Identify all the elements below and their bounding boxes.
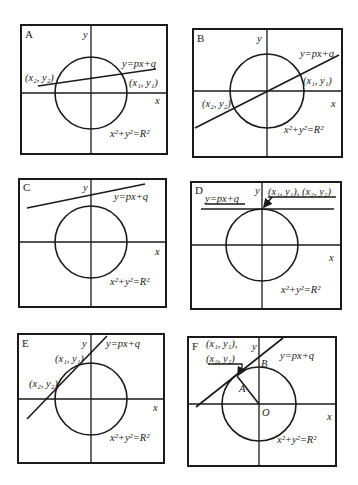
panel-b-line-eq: y=px+q bbox=[299, 48, 334, 59]
panel-d-circle-eq: x²+y²=R² bbox=[280, 284, 321, 295]
panel-a-y-label: y bbox=[82, 29, 88, 40]
panel-c-x-label: x bbox=[154, 246, 160, 257]
panel-b: B y x y=px+q (x₁, y₁) (x₂, y₂) x²+y²=R² bbox=[193, 29, 342, 157]
panel-f-x-label: x bbox=[326, 411, 332, 422]
panel-e-x-label: x bbox=[152, 402, 158, 413]
panel-d-arrow bbox=[264, 197, 272, 207]
panel-f-line-eq: y=px+q bbox=[279, 350, 314, 361]
panel-d-points: (x₁, y₁), (x₂, y₂) bbox=[268, 186, 331, 198]
panel-e-point-2: (x₂, y₂) bbox=[29, 378, 58, 390]
panel-c-line-eq: y=px+q bbox=[113, 191, 148, 202]
panel-a-x-label: x bbox=[154, 95, 160, 106]
panel-d-line-eq: y=px+q bbox=[204, 193, 239, 204]
panel-f-label-b: B bbox=[261, 358, 268, 369]
panel-b-point-2: (x₂, y₂) bbox=[202, 98, 231, 110]
panel-e-tag: E bbox=[22, 337, 29, 349]
panel-f-point-1: (x₁, y₁), bbox=[206, 338, 238, 350]
panel-a-tag: A bbox=[25, 28, 33, 40]
panel-a-circle-eq: x²+y²=R² bbox=[109, 128, 150, 139]
panel-e-line-eq: y=px+q bbox=[105, 338, 140, 349]
panel-b-x-label: x bbox=[330, 98, 336, 109]
panel-e-point-1: (x₁, y₁) bbox=[55, 353, 84, 365]
panel-d-tag: D bbox=[195, 184, 203, 196]
panel-b-circle-eq: x²+y²=R² bbox=[283, 124, 324, 135]
panel-f-label-a: A bbox=[238, 383, 246, 394]
panel-a-point-1: (x₁, y₁) bbox=[129, 77, 158, 89]
panel-f-point-2: (x₂, y₂) bbox=[206, 353, 235, 365]
panel-d-y-label: y bbox=[254, 185, 260, 196]
panel-b-y-label: y bbox=[256, 33, 262, 44]
panel-a: A y x y=px+q (x₂, y₂) (x₁, y₁) x²+y²=R² bbox=[21, 25, 167, 154]
panel-a-line-eq: y=px+q bbox=[121, 58, 156, 69]
panel-c-tag: C bbox=[23, 181, 30, 193]
panel-c-circle-eq: x²+y²=R² bbox=[109, 276, 150, 287]
panel-d-x-label: x bbox=[328, 252, 334, 263]
panel-c-y-label: y bbox=[82, 182, 88, 193]
panel-e-circle-eq: x²+y²=R² bbox=[109, 432, 150, 443]
panel-f-label-o: O bbox=[262, 407, 270, 418]
panel-f: F y x y=px+q (x₁, y₁), (x₂, y₂) A B O x²… bbox=[188, 337, 336, 466]
panel-d: D y x y=px+q (x₁, y₁), (x₂, y₂) x²+y²=R² bbox=[191, 182, 341, 309]
panel-b-tag: B bbox=[197, 32, 204, 44]
figure-canvas: A y x y=px+q (x₂, y₂) (x₁, y₁) x²+y²=R² … bbox=[0, 0, 358, 485]
panel-f-y-label: y bbox=[251, 341, 257, 352]
panel-c: C y x y=px+q x²+y²=R² bbox=[19, 179, 166, 307]
panel-f-leader-line bbox=[208, 364, 242, 369]
panel-b-point-1: (x₁, y₁) bbox=[303, 75, 332, 87]
panel-e-y-label: y bbox=[81, 338, 87, 349]
panel-e: E y x y=px+q (x₁, y₁) (x₂, y₂) x²+y²=R² bbox=[18, 334, 164, 463]
panel-f-circle-eq: x²+y²=R² bbox=[276, 434, 317, 445]
panel-a-point-2: (x₂, y₂) bbox=[25, 72, 54, 84]
panel-f-tag: F bbox=[192, 340, 198, 352]
